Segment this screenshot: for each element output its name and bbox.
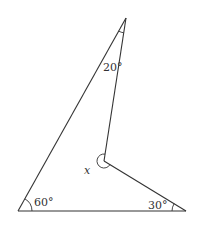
angle-arc-bottom-left xyxy=(25,199,32,211)
edge-top-to-interior xyxy=(104,18,126,161)
label-interior-angle: x xyxy=(84,164,91,177)
edge-left xyxy=(18,18,126,211)
angle-arc-interior xyxy=(97,154,110,168)
angle-arc-top xyxy=(119,31,124,33)
angle-arc-bottom-right xyxy=(172,204,174,211)
geometry-figure: 20° 60° 30° x xyxy=(0,0,200,227)
label-bottom-left-angle: 60° xyxy=(34,196,54,209)
label-bottom-right-angle: 30° xyxy=(148,199,168,212)
label-top-angle: 20° xyxy=(103,61,123,74)
